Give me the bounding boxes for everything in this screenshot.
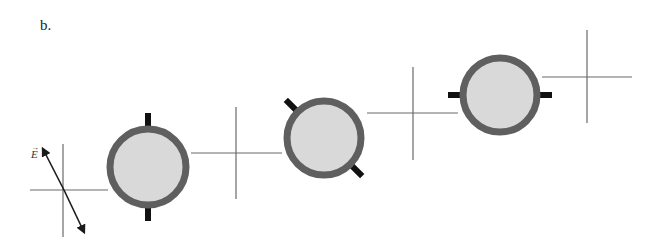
axis-cross-3 [367, 67, 458, 160]
axis-cross-2 [191, 107, 282, 199]
molecule-ring [287, 101, 361, 175]
molecule-2 [284, 98, 365, 179]
axis-cross-4 [542, 30, 632, 123]
molecule-3 [448, 58, 552, 132]
figure-panel-b: b. E → [0, 0, 661, 251]
field-arrow-down-icon [64, 190, 83, 230]
panel-label: b. [40, 17, 51, 33]
molecule-ring [110, 129, 186, 205]
molecule-ring [463, 58, 537, 132]
vector-arrow-icon: → [31, 143, 39, 152]
field-arrow-up-icon [44, 151, 64, 190]
molecule-1 [110, 113, 186, 221]
diagram-canvas: b. E → [0, 0, 661, 251]
axis-cross-1 [30, 144, 108, 237]
electric-field-vector: E → [30, 143, 83, 230]
